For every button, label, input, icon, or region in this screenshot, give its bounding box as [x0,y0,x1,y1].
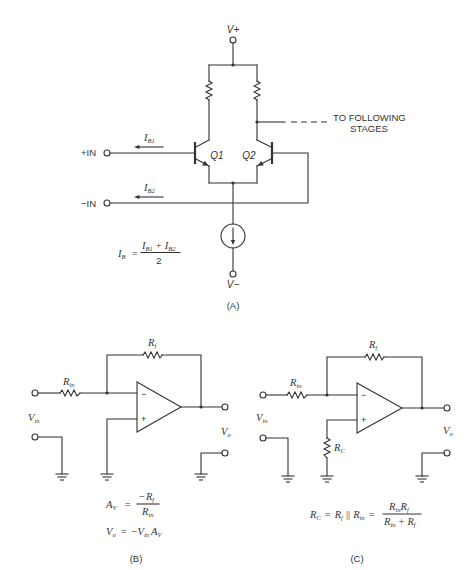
rc-label: RC [333,442,345,454]
rc-formula: RC=Rf||Rin= RinRf Rin+Rf [309,501,421,528]
vo-label: Vo [221,426,231,438]
ib2-label: IB2 [143,182,155,194]
rc-formula-lhs: RC=Rf||Rin= [309,509,375,521]
rin-resistor [60,390,80,396]
vo-terminal-bottom [444,450,450,456]
wire [38,437,62,474]
junction-dot [231,63,234,66]
plus-in-terminal [104,150,110,156]
panel-b-inverting-amplifier: Rin Rf − + Vin Vo AV = −Rf [28,337,231,564]
q2-collector-lead [257,140,271,147]
rin-label: Rin [62,376,74,388]
q1-collector-resistor [206,81,212,100]
vin-terminal-bottom [260,435,266,441]
v-positive-label: V+ [227,24,240,35]
v-negative-label: V− [227,279,240,290]
wire [201,453,222,474]
vo-label: Vo [443,425,453,437]
rf-resistor [143,352,162,358]
wire [327,420,357,438]
bias-current-formula: IB = IB1+IB2 2 [117,240,180,266]
inverting-input-sign: − [141,389,146,399]
ib1-arrow-icon [134,145,140,149]
output-note-line1: TO FOLLOWING [333,112,406,123]
ground-icon [416,476,428,482]
gain-equals: = [125,498,131,509]
vin-terminal-bottom [32,434,38,440]
vo-terminal-bottom [222,450,228,456]
rf-label: Rf [368,339,378,351]
junction-dot [199,405,202,408]
wire [107,419,137,474]
rc-formula-numerator: RinRf [388,501,410,513]
ib2-arrow-icon [134,195,140,199]
noninverting-input-sign: + [141,414,146,424]
output-formula-text: Vo=−VinAV [106,526,162,538]
vin-terminal-top [260,392,266,398]
wire [327,357,365,395]
q2-label: Q2 [242,150,256,161]
gain-lhs: AV [105,499,117,511]
vo-terminal-top [222,404,228,410]
rin-resistor [287,392,307,398]
vin-label: Vin [256,412,267,424]
minus-in-terminal [104,200,110,206]
wire [107,355,143,393]
plus-in-label: +IN [81,147,96,158]
wire [384,357,422,408]
ground-icon [56,474,68,480]
vin-terminal-top [32,390,38,396]
rf-label: Rf [147,337,157,349]
v-negative-terminal [230,271,236,277]
rf-resistor [365,354,384,360]
gain-denominator: Rin [141,506,153,518]
gain-numerator: −Rf [139,491,155,503]
output-formula: Vo=−VinAV [106,526,162,538]
rc-formula-denominator: Rin+Rf [383,516,417,528]
panel-c-caption: (C) [350,553,363,564]
formula-numerator: IB1+IB2 [141,240,176,252]
output-note-line2: STAGES [350,123,388,134]
panel-a-caption: (A) [227,300,240,311]
circuit-figure: V+ TO FOLLOWING STAGES Q1 Q2 [0,0,474,570]
wire [266,438,288,476]
ib1-label: IB1 [143,132,155,144]
formula-denominator: 2 [156,255,161,266]
v-positive-terminal [230,37,236,43]
vo-terminal-top [444,405,450,411]
gain-formula: AV = −Rf Rin [105,491,159,518]
ground-icon [195,474,207,480]
current-arrow-icon [231,240,235,245]
wire [422,453,444,476]
minus-in-label: −IN [81,198,96,209]
noninverting-input-sign: + [361,415,366,425]
ground-icon [321,476,333,482]
formula-lhs: IB [117,248,126,260]
q1-collector-lead [196,140,209,147]
rc-resistor [324,438,330,458]
inverting-input-sign: − [361,390,366,400]
formula-equals: = [132,247,138,258]
q1-label: Q1 [210,150,223,161]
vin-label: Vin [28,412,39,424]
ground-icon [101,474,113,480]
q2-collector-resistor [254,81,260,100]
rin-label: Rin [289,377,301,389]
panel-c-compensated-amplifier: Rin Rf − + RC Vin Vo RC=Rf| [256,339,453,564]
panel-b-caption: (B) [130,553,143,564]
ground-icon [282,476,294,482]
junction-dot [420,406,423,409]
panel-a-differential-pair: V+ TO FOLLOWING STAGES Q1 Q2 [81,24,406,311]
